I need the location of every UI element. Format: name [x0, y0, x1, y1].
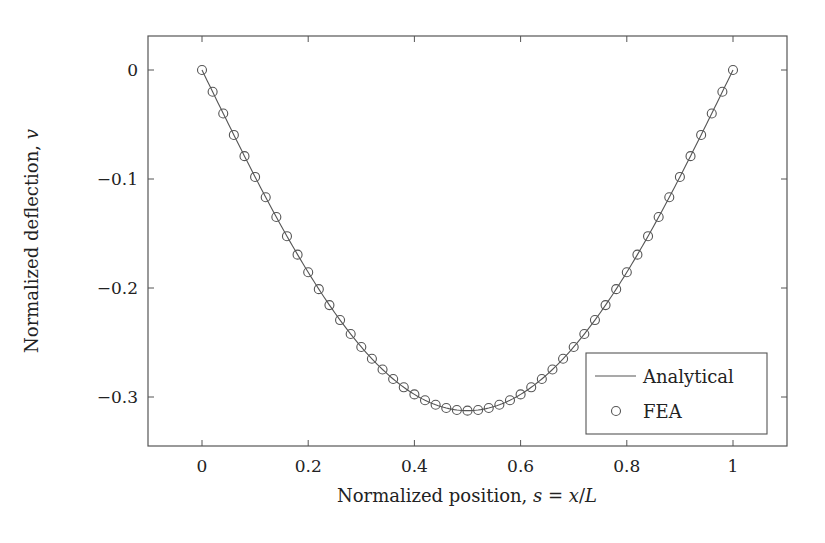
- x-tick-label: 0.6: [507, 456, 534, 476]
- legend-label-analytical: Analytical: [642, 366, 734, 387]
- y-tick-label: −0.2: [97, 278, 138, 298]
- y-tick-label: −0.3: [97, 387, 138, 407]
- x-tick-label: 1: [728, 456, 739, 476]
- x-axis-label: Normalized position, s = x/L: [337, 485, 597, 506]
- y-tick-label: −0.1: [97, 169, 138, 189]
- legend-label-fea: FEA: [643, 401, 683, 422]
- x-tick-label: 0.8: [613, 456, 640, 476]
- chart: 00.20.40.60.81 0−0.1−0.2−0.3 Normalized …: [0, 0, 825, 543]
- x-tick-label: 0.2: [295, 456, 322, 476]
- y-axis-label: Normalized deflection, v: [21, 129, 42, 353]
- y-tick-label: 0: [127, 60, 138, 80]
- x-tick-label: 0: [197, 456, 208, 476]
- legend: Analytical FEA: [586, 353, 767, 434]
- x-tick-label: 0.4: [401, 456, 428, 476]
